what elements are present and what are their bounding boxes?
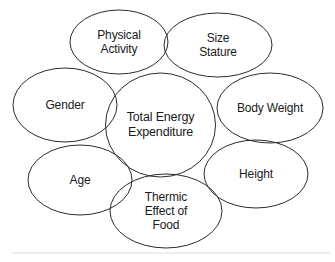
ellipse-body-weight (217, 73, 323, 143)
bottom-divider (12, 252, 330, 254)
diagram-canvas: Physical Activity Size Stature Gender Bo… (0, 0, 335, 262)
diagram-outlines (0, 0, 335, 262)
ellipse-total-energy-expenditure (106, 73, 216, 177)
ellipse-size-stature (164, 13, 272, 77)
ellipse-gender (13, 68, 117, 142)
ellipse-thermic-effect-of-food (110, 174, 222, 248)
ellipse-physical-activity (70, 10, 168, 74)
ellipse-height (204, 140, 308, 208)
